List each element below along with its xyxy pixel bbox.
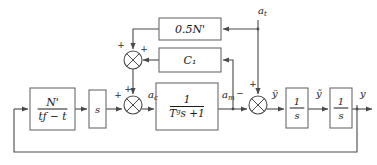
block-diagram-canvas: N'tƒ − ts0.5N'C₁1Tᵍs +11s1s +++++− acama… [0, 0, 377, 165]
command-summing-junction-sign-top: + [124, 84, 132, 94]
second-integrator-block: 1s [330, 88, 352, 128]
half-nav-gain-block: 0.5N' [159, 18, 221, 40]
derivative-block: s [89, 90, 106, 128]
block-diagram-figure: N'tƒ − ts0.5N'C₁1Tᵍs +11s1s +++++− acama… [0, 0, 377, 165]
relative-position-label: y [359, 88, 366, 99]
navigation-gain-block-denominator: tƒ − t [39, 110, 68, 122]
dot-y-branch [356, 108, 359, 111]
navigation-gain-block: N'tƒ − t [30, 88, 75, 130]
half-nav-gain-block-label: 0.5N' [175, 23, 205, 36]
first-integrator-block-denominator: s [294, 110, 299, 121]
second-integrator-block-numerator: 1 [338, 96, 344, 107]
missile-acceleration-label-subscript: m [228, 94, 235, 102]
autopilot-lag-block-numerator: 1 [184, 93, 191, 106]
relative-velocity-label: ỹ [315, 88, 322, 99]
derivative-block-label: s [95, 104, 100, 115]
autopilot-lag-block: 1Tᵍs +1 [156, 83, 218, 130]
relative-acceleration-label: ÿ [271, 88, 278, 99]
relative-acceleration-summing-junction-sign-left: − [236, 88, 244, 98]
navigation-gain-block-numerator: N' [45, 96, 59, 109]
command-summing-junction-sign-left: + [114, 90, 122, 100]
upper-summing-junction-sign-top-left: + [117, 40, 125, 50]
c1-gain-block-label: C₁ [184, 54, 197, 67]
upper-summing-junction-sign-right-top: + [140, 44, 148, 54]
relative-acceleration-summing-junction-sign-top: + [249, 79, 257, 89]
commanded-acceleration-label-subscript: c [154, 94, 158, 102]
target-acceleration-label: at [258, 5, 267, 18]
second-integrator-block-denominator: s [338, 110, 343, 121]
c1-gain-block: C₁ [159, 48, 221, 72]
autopilot-lag-block-denominator: Tᵍs +1 [169, 107, 204, 119]
first-integrator-block: 1s [286, 88, 308, 128]
first-integrator-block-numerator: 1 [294, 96, 300, 107]
dot-at-branch [257, 28, 260, 31]
dot-am-branch [232, 108, 235, 111]
blocks-group: N'tƒ − ts0.5N'C₁1Tᵍs +11s1s [30, 18, 352, 130]
target-acceleration-label-subscript: t [264, 10, 267, 18]
